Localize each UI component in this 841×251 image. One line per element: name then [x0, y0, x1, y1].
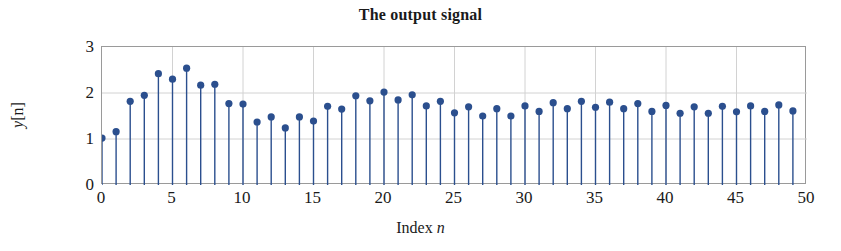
data-point-marker — [536, 108, 543, 115]
data-point-marker — [437, 98, 444, 105]
data-point-marker — [282, 124, 289, 131]
data-point-marker — [451, 109, 458, 116]
data-point-marker — [155, 70, 162, 77]
data-point-marker — [705, 110, 712, 117]
x-axis-tick-label: 45 — [716, 189, 756, 206]
data-point-marker — [423, 102, 430, 109]
y-axis-label: y[n] — [9, 102, 27, 128]
data-point-marker — [310, 117, 317, 124]
data-point-marker — [620, 105, 627, 112]
data-point-marker — [733, 108, 740, 115]
data-point-marker — [719, 103, 726, 110]
x-axis-tick-label: 20 — [363, 189, 403, 206]
data-point-marker — [662, 102, 669, 109]
y-axis-label-variable: y — [9, 121, 26, 128]
stem-lines — [102, 68, 793, 185]
x-axis-label-variable: n — [437, 219, 445, 236]
stem-markers — [102, 65, 797, 142]
y-axis-label-text: [n] — [9, 102, 26, 121]
x-axis-label: Index n — [0, 219, 841, 237]
x-axis-tick-label: 35 — [575, 189, 615, 206]
x-axis-tick-label: 50 — [786, 189, 826, 206]
x-axis-tick-label: 5 — [152, 189, 192, 206]
data-point-marker — [197, 82, 204, 89]
chart-figure: The output signal 0123 05101520253035404… — [0, 0, 841, 251]
data-point-marker — [211, 81, 218, 88]
data-point-marker — [634, 100, 641, 107]
data-point-marker — [677, 110, 684, 117]
data-point-marker — [239, 100, 246, 107]
y-axis-tick-label: 2 — [66, 84, 94, 101]
data-point-marker — [691, 103, 698, 110]
data-point-marker — [324, 103, 331, 110]
data-point-marker — [761, 108, 768, 115]
data-point-marker — [507, 112, 514, 119]
data-point-marker — [268, 113, 275, 120]
stem-plot-svg — [102, 47, 807, 185]
data-point-marker — [113, 128, 120, 135]
data-point-marker — [789, 107, 796, 114]
data-point-marker — [592, 104, 599, 111]
data-point-marker — [606, 99, 613, 106]
data-point-marker — [409, 91, 416, 98]
data-point-marker — [102, 134, 106, 141]
y-axis-tick-label: 3 — [66, 38, 94, 55]
data-point-marker — [775, 101, 782, 108]
y-axis-tick-label: 1 — [66, 130, 94, 147]
x-axis-tick-label: 15 — [293, 189, 333, 206]
data-point-marker — [352, 92, 359, 99]
data-point-marker — [395, 96, 402, 103]
data-point-marker — [183, 65, 190, 72]
chart-title: The output signal — [0, 6, 841, 24]
x-axis-tick-label: 0 — [81, 189, 121, 206]
x-axis-tick-label: 30 — [504, 189, 544, 206]
data-point-marker — [521, 102, 528, 109]
data-point-marker — [169, 76, 176, 83]
x-axis-label-text: Index — [396, 219, 436, 236]
data-point-marker — [127, 98, 134, 105]
data-point-marker — [366, 97, 373, 104]
data-point-marker — [338, 106, 345, 113]
x-axis-tick-label: 40 — [645, 189, 685, 206]
x-axis-tick-label: 25 — [434, 189, 474, 206]
data-point-marker — [380, 88, 387, 95]
data-point-marker — [254, 118, 261, 125]
data-point-marker — [564, 105, 571, 112]
data-point-marker — [578, 98, 585, 105]
data-point-marker — [465, 103, 472, 110]
data-point-marker — [493, 105, 500, 112]
x-axis-tick-label: 10 — [222, 189, 262, 206]
data-point-marker — [225, 100, 232, 107]
plot-area — [101, 46, 806, 184]
data-point-marker — [648, 108, 655, 115]
data-point-marker — [296, 113, 303, 120]
data-point-marker — [550, 99, 557, 106]
data-point-marker — [747, 102, 754, 109]
data-point-marker — [141, 92, 148, 99]
data-point-marker — [479, 112, 486, 119]
